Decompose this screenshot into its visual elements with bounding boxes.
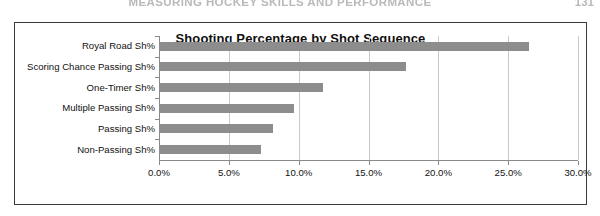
y-axis-labels: Royal Road Sh%Scoring Chance Passing Sh%…: [15, 36, 155, 160]
x-axis-tick: [578, 161, 579, 165]
bar-row: [159, 57, 578, 78]
x-axis-label: 30.0%: [564, 167, 591, 178]
x-axis-label: 5.0%: [218, 167, 240, 178]
x-axis-label: 0.0%: [148, 167, 170, 178]
bar[interactable]: [160, 42, 529, 51]
y-axis-label: Scoring Chance Passing Sh%: [27, 62, 155, 72]
y-axis-line: [159, 36, 160, 160]
bar-row: [159, 119, 578, 140]
x-axis-tick: [438, 161, 439, 165]
x-axis-tick: [229, 161, 230, 165]
bar-row: [159, 139, 578, 160]
scanned-page: MEASURING HOCKEY SKILLS AND PERFORMANCE …: [0, 0, 600, 216]
x-axis-tick: [369, 161, 370, 165]
gridline-30.0%: [578, 36, 579, 160]
y-axis-label: Non-Passing Sh%: [77, 145, 155, 155]
x-axis-tick: [508, 161, 509, 165]
bar[interactable]: [160, 83, 323, 92]
plot-area: [159, 36, 578, 160]
page-number: 131: [575, 0, 594, 8]
x-axis-tick: [299, 161, 300, 165]
x-axis-label: 10.0%: [285, 167, 312, 178]
chart-figure: Shooting Percentage by Shot Sequence Roy…: [14, 22, 587, 205]
y-axis-label: Passing Sh%: [98, 124, 155, 134]
bar-row: [159, 77, 578, 98]
y-axis-label: Multiple Passing Sh%: [62, 103, 155, 113]
x-axis-tick: [159, 161, 160, 165]
bar-row: [159, 36, 578, 57]
bar[interactable]: [160, 124, 273, 133]
x-axis-label: 15.0%: [355, 167, 382, 178]
y-axis-label: Royal Road Sh%: [82, 41, 155, 51]
bar-row: [159, 98, 578, 119]
y-axis-label: One-Timer Sh%: [87, 83, 155, 93]
x-axis-label: 25.0%: [495, 167, 522, 178]
x-axis-label: 20.0%: [425, 167, 452, 178]
x-axis-ticks: [159, 161, 578, 166]
running-head-title: MEASURING HOCKEY SKILLS AND PERFORMANCE: [0, 0, 560, 8]
bar[interactable]: [160, 145, 261, 154]
x-axis-tick-labels: 0.0%5.0%10.0%15.0%20.0%25.0%30.0%: [159, 167, 578, 181]
bar[interactable]: [160, 104, 294, 113]
bar[interactable]: [160, 62, 406, 71]
running-head: MEASURING HOCKEY SKILLS AND PERFORMANCE …: [0, 0, 600, 8]
